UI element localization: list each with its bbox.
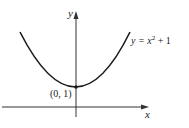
equation-label: y = x2 + 1 <box>130 34 171 46</box>
y-axis-arrow-icon <box>74 11 79 19</box>
x-axis-label: x <box>144 108 150 120</box>
equation-suffix: + 1 <box>155 35 171 46</box>
vertex-label: (0, 1) <box>50 88 72 100</box>
parabola-curve <box>20 32 130 87</box>
equation-base: y = x <box>130 35 152 46</box>
y-axis-label: y <box>67 7 73 19</box>
vertex-point <box>74 85 78 89</box>
parabola-diagram: y x (0, 1) y = x2 + 1 <box>0 0 189 128</box>
